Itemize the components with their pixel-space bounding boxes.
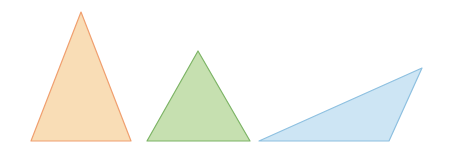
triangles-svg xyxy=(0,0,450,151)
orange-triangle xyxy=(31,12,131,141)
green-triangle xyxy=(147,51,250,141)
triangles-diagram xyxy=(0,0,450,151)
blue-triangle xyxy=(259,68,422,141)
